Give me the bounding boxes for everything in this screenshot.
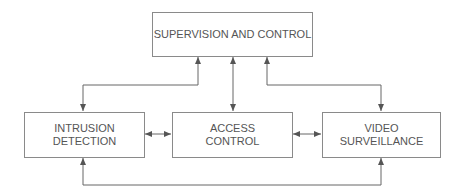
node-intrusion-detection: INTRUSION DETECTION — [24, 112, 145, 158]
node-video-surveillance: VIDEO SURVEILLANCE — [322, 112, 441, 158]
node-label-line-2: SURVEILLANCE — [340, 135, 424, 148]
edge-supervision-video — [267, 57, 381, 111]
edge-supervision-intrusion — [83, 57, 198, 111]
security-system-diagram: SUPERVISION AND CONTROL INTRUSION DETECT… — [0, 0, 462, 195]
node-access-control: ACCESS CONTROL — [172, 112, 293, 158]
node-label-line-1: VIDEO — [364, 122, 398, 135]
node-label-line-2: DETECTION — [53, 135, 117, 148]
edge-intrusion-video — [83, 158, 381, 185]
node-label-line-1: ACCESS — [210, 122, 255, 135]
node-supervision-and-control: SUPERVISION AND CONTROL — [152, 12, 313, 57]
node-label-line-1: INTRUSION — [54, 122, 115, 135]
node-label-line-2: CONTROL — [206, 135, 260, 148]
node-label: SUPERVISION AND CONTROL — [154, 28, 312, 41]
